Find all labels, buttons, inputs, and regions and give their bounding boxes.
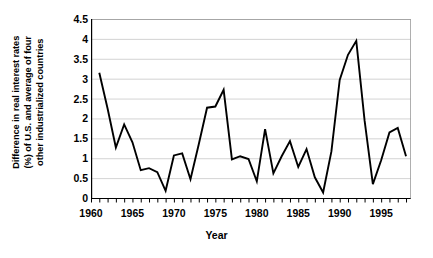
x-tick-label: 1995 [369, 208, 392, 219]
y-tick-label: 0 [60, 193, 88, 204]
x-tick-label: 1960 [79, 208, 102, 219]
y-axis-title-line-1: Difference in real interest rates [11, 36, 23, 169]
data-line-0 [99, 41, 406, 193]
y-axis-title: Difference in real interest rates (%) of… [0, 0, 58, 205]
y-axis-title-line-3: other industrialized countries [35, 36, 47, 169]
y-tick-label: 3.5 [60, 54, 88, 65]
x-tick-label: 1970 [162, 208, 185, 219]
y-tick-label: 3 [60, 74, 88, 85]
x-tick-label: 1985 [287, 208, 310, 219]
y-tick-label: 0.5 [60, 173, 88, 184]
y-tick-label: 1.5 [60, 133, 88, 144]
plot-area [91, 19, 411, 198]
y-tick-label: 4 [60, 34, 88, 45]
chart-figure: Difference in real interest rates (%) of… [0, 0, 433, 258]
x-tick-label: 1965 [121, 208, 144, 219]
x-axis-title: Year [0, 229, 433, 241]
y-axis-title-line-2: (%) of U.S. and average of four [23, 36, 35, 169]
y-tick-label: 2.5 [60, 94, 88, 105]
x-tick-label: 1975 [204, 208, 227, 219]
y-tick-label: 1 [60, 153, 88, 164]
y-tick-label: 4.5 [60, 14, 88, 25]
x-tick-label: 1980 [245, 208, 268, 219]
y-tick-label: 2 [60, 113, 88, 124]
x-axis-tick-labels: 19601965197019751980198519901995 [0, 208, 433, 224]
x-tick-label: 1990 [328, 208, 351, 219]
